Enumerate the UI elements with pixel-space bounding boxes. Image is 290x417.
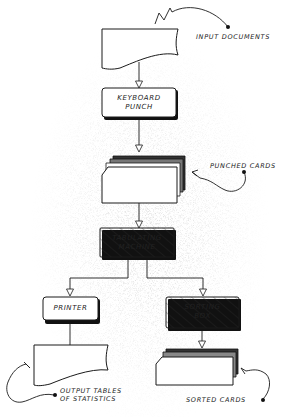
input-documents-annotation: INPUT DOCUMENTS xyxy=(196,33,270,41)
keyboard-punch-label-line1: KEYBOARD xyxy=(102,94,176,103)
printer-label-line1: PRINTER xyxy=(43,304,98,313)
output-annotation-line1: OUTPUT TABLES xyxy=(60,387,122,395)
punched-cards-shape xyxy=(102,156,185,203)
tabulating-machine-label-line1: TABULATING xyxy=(100,234,174,243)
keyboard-punch-label: KEYBOARD PUNCH xyxy=(102,94,176,112)
tabulating-machine-label: TABULATING MACHINE xyxy=(100,234,174,252)
flowchart-graphics xyxy=(0,0,290,417)
printer-label: PRINTER xyxy=(43,304,98,313)
sorting-box-label-line1: SORTING xyxy=(166,303,239,312)
tabulating-machine-label-line2: MACHINE xyxy=(100,243,174,252)
sorted-cards-annotation: SORTED CARDS xyxy=(186,396,246,404)
punched-cards-annotation: PUNCHED CARDS xyxy=(210,162,276,170)
keyboard-punch-label-line2: PUNCH xyxy=(102,103,176,112)
sorting-box-label-line2: BOX xyxy=(166,312,239,321)
sorted-cards-shape xyxy=(156,349,238,385)
output-tables-annotation: OUTPUT TABLES OF STATISTICS xyxy=(60,387,122,403)
sorting-box-label: SORTING BOX xyxy=(166,303,239,321)
diagram-canvas: KEYBOARD PUNCH TABULATING MACHINE PRINTE… xyxy=(0,0,290,417)
output-annotation-line2: OF STATISTICS xyxy=(60,395,122,403)
